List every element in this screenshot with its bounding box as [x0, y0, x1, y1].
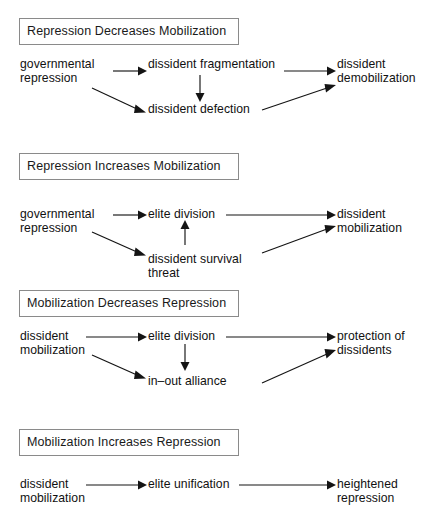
panel-mobilization-increases-repression: Mobilization Increases Repression dissid…: [0, 410, 436, 522]
node-dissident-fragmentation: dissident fragmentation: [148, 58, 275, 72]
node-protection-of-dissidents: protection of dissidents: [337, 330, 405, 357]
panel-mobilization-decreases-repression: Mobilization Decreases Repression dissid…: [0, 280, 436, 410]
node-in-out-alliance: in–out alliance: [148, 375, 227, 389]
node-governmental-repression: governmental repression: [20, 58, 94, 85]
node-dissident-mobilization: dissident mobilization: [20, 330, 85, 357]
node-governmental-repression: governmental repression: [20, 208, 94, 235]
panel-4-title: Mobilization Increases Repression: [20, 436, 221, 449]
node-dissident-mobilization: dissident mobilization: [20, 478, 85, 505]
panel-4-title-box: Mobilization Increases Repression: [19, 429, 239, 456]
panel-repression-increases-mobilization: Repression Increases Mobilization govern…: [0, 130, 436, 280]
panel-3-title-box: Mobilization Decreases Repression: [19, 290, 239, 317]
causal-diagram-figure: Repression Decreases Mobilization govern…: [0, 0, 436, 522]
node-dissident-mobilization: dissident mobilization: [337, 208, 402, 235]
node-elite-unification: elite unification: [148, 478, 229, 492]
node-dissident-demobilization: dissident demobilization: [337, 58, 416, 85]
node-elite-division: elite division: [148, 208, 215, 222]
node-dissident-survival-threat: dissident survival threat: [148, 253, 242, 280]
panel-1-title-box: Repression Decreases Mobilization: [19, 18, 239, 45]
node-elite-division: elite division: [148, 330, 215, 344]
panel-repression-decreases-mobilization: Repression Decreases Mobilization govern…: [0, 0, 436, 130]
panel-1-title: Repression Decreases Mobilization: [20, 25, 226, 38]
node-heightened-repression: heightened repression: [337, 478, 398, 505]
node-dissident-defection: dissident defection: [148, 103, 250, 117]
panel-3-title: Mobilization Decreases Repression: [20, 297, 226, 310]
panel-2-title-box: Repression Increases Mobilization: [19, 153, 239, 180]
panel-2-title: Repression Increases Mobilization: [20, 160, 221, 173]
